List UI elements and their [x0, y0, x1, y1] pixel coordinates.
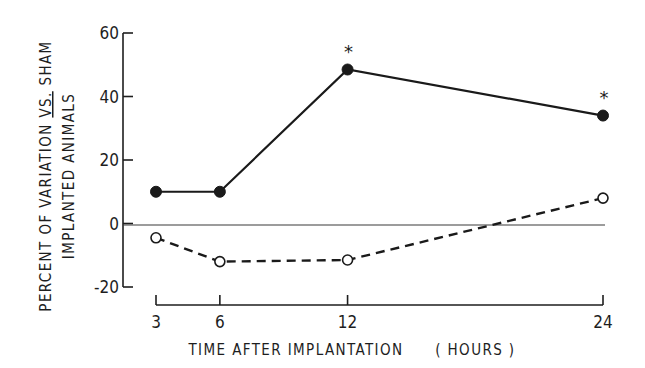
data-point-filled: [214, 186, 225, 197]
data-point-open: [598, 193, 608, 203]
data-point-open: [343, 255, 353, 265]
y-tick-label: -20: [94, 277, 119, 297]
series-line-open: [156, 198, 603, 262]
line-chart: 6040200-20 361224 ** PERCENT OF VARIATIO…: [0, 0, 645, 368]
y-axis-title-line2: IMPLANTED ANIMALS: [60, 93, 78, 259]
significance-asterisk: *: [600, 87, 609, 108]
x-axis-title-text: TIME AFTER IMPLANTATION ( HOURS ): [187, 341, 515, 359]
y-tick-label: 0: [109, 214, 119, 234]
y-tick-label: 20: [100, 150, 119, 170]
x-tick-label: 3: [151, 312, 161, 332]
data-point-filled: [342, 64, 353, 75]
y-axis-title-part: SHAM: [37, 40, 55, 91]
x-tick-label: 24: [593, 312, 612, 332]
data-point-filled: [151, 186, 162, 197]
y-tick-label: 60: [100, 23, 119, 43]
x-axis-title-label: TIME AFTER IMPLANTATION: [187, 341, 403, 359]
x-axis-title: TIME AFTER IMPLANTATION ( HOURS ): [187, 341, 515, 359]
y-axis-title-underlined: VS.: [37, 91, 55, 117]
y-axis-title: PERCENT OF VARIATION VS. SHAM IMPLANTED …: [37, 40, 78, 311]
y-axis-title-part: PERCENT OF VARIATION: [37, 118, 55, 312]
data-point-open: [215, 257, 225, 267]
data-point-filled: [598, 110, 609, 121]
significance-asterisk: *: [344, 41, 353, 62]
x-tick-label: 6: [215, 312, 225, 332]
x-axis: 361224: [151, 295, 613, 332]
data-point-open: [151, 233, 161, 243]
x-tick-label: 12: [338, 312, 357, 332]
series-layer: **: [151, 41, 609, 267]
y-axis-title-line1: PERCENT OF VARIATION VS. SHAM: [37, 40, 55, 311]
x-axis-units-label: ( HOURS ): [435, 341, 515, 359]
y-axis: 6040200-20: [94, 23, 133, 297]
y-tick-label: 40: [100, 87, 119, 107]
series-line-filled: [156, 70, 603, 192]
